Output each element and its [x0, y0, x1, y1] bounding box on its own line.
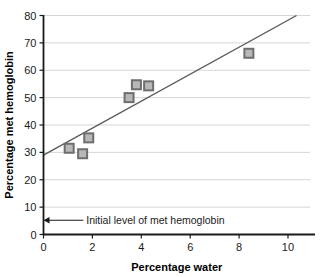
y-tick-label-0: 0: [30, 229, 36, 241]
scatter-plot: 010203040506070800246810Initial level of…: [0, 0, 321, 277]
data-point-marker: [132, 80, 141, 89]
y-tick-label-30: 30: [24, 146, 36, 158]
y-tick-label-50: 50: [24, 92, 36, 104]
data-points: [65, 49, 254, 158]
annotation-label: Initial level of met hemoglobin: [86, 214, 224, 226]
y-tick-label-60: 60: [24, 64, 36, 76]
x-tick-label-2: 2: [89, 241, 95, 253]
y-tick-label-10: 10: [24, 201, 36, 213]
data-point-marker: [244, 49, 253, 58]
data-point-marker: [65, 144, 74, 153]
chart-container: 010203040506070800246810Initial level of…: [0, 0, 321, 277]
y-tick-label-70: 70: [24, 37, 36, 49]
y-tick-label-40: 40: [24, 119, 36, 131]
x-tick-label-8: 8: [236, 241, 242, 253]
x-axis-ticks: 0246810: [40, 235, 294, 253]
x-axis-title: Percentage water: [131, 261, 223, 273]
data-point-marker: [144, 81, 153, 90]
y-axis-ticks: 01020304050607080: [24, 10, 43, 241]
data-point-marker: [125, 93, 134, 102]
trend-line: [44, 16, 297, 156]
data-point-marker: [84, 133, 93, 142]
annotation-0: Initial level of met hemoglobin: [44, 214, 225, 226]
x-tick-label-10: 10: [282, 241, 294, 253]
y-tick-label-20: 20: [24, 174, 36, 186]
x-tick-label-0: 0: [40, 241, 46, 253]
annotation-arrowhead-icon: [44, 217, 50, 223]
x-tick-label-4: 4: [138, 241, 144, 253]
x-tick-label-6: 6: [187, 241, 193, 253]
gridlines: [44, 16, 311, 208]
y-axis-title: Percentage met hemoglobin: [3, 51, 15, 199]
y-tick-label-80: 80: [24, 10, 36, 22]
data-point-marker: [78, 149, 87, 158]
